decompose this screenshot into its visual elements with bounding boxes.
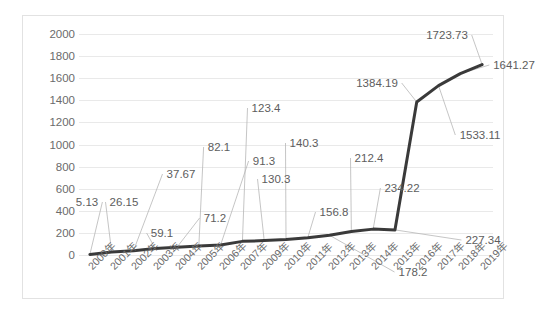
data-point-label: 234.22 xyxy=(384,182,419,194)
data-point-label: 140.3 xyxy=(290,137,319,149)
data-point-label: 123.4 xyxy=(252,102,281,114)
data-point-label: 130.3 xyxy=(262,173,291,185)
leader-line xyxy=(472,35,482,65)
leader-line xyxy=(258,179,265,241)
data-point-label: 227.34 xyxy=(465,234,500,246)
leader-line xyxy=(286,143,287,239)
leader-line xyxy=(199,147,204,246)
data-point-label: 1723.73 xyxy=(426,29,468,41)
data-point-label: 1384.19 xyxy=(356,77,398,89)
data-point-label: 71.2 xyxy=(204,212,226,224)
chart-container: 0200400600800100012001400160018002000 20… xyxy=(22,15,504,299)
leader-line xyxy=(221,161,249,245)
leader-line xyxy=(242,108,247,241)
leader-line xyxy=(439,86,456,135)
data-point-label: 178.2 xyxy=(399,266,428,278)
leader-line xyxy=(402,83,417,102)
leader-line xyxy=(351,158,352,232)
data-point-label: 212.4 xyxy=(355,152,384,164)
data-label-leader-lines xyxy=(90,35,489,272)
chart-plot-area: 0200400600800100012001400160018002000 20… xyxy=(23,16,505,300)
leader-line xyxy=(308,212,316,238)
data-point-label: 5.13 xyxy=(76,196,98,208)
data-point-label: 156.8 xyxy=(320,206,349,218)
leader-line xyxy=(395,230,461,240)
data-point-label: 26.15 xyxy=(110,196,139,208)
data-point-label: 91.3 xyxy=(253,155,275,167)
data-point-label: 59.1 xyxy=(151,227,173,239)
data-point-label: 37.67 xyxy=(167,168,196,180)
data-point-label: 1533.11 xyxy=(460,129,501,141)
data-point-label: 1641.27 xyxy=(493,59,535,71)
leader-line xyxy=(373,188,380,229)
data-point-label: 82.1 xyxy=(208,141,230,153)
